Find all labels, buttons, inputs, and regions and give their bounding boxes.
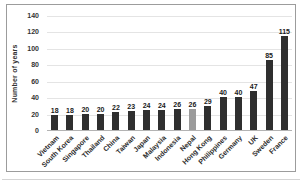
bar xyxy=(220,97,227,130)
gridline xyxy=(47,49,292,50)
chart-frame: Number of years 020406080100120140 18182… xyxy=(6,4,296,172)
bar xyxy=(204,106,211,130)
bar xyxy=(174,109,181,130)
bar xyxy=(97,114,104,130)
y-tick-label: 0 xyxy=(9,127,39,135)
y-tick-label: 20 xyxy=(9,111,39,119)
bar-value-label: 29 xyxy=(196,97,220,106)
bar xyxy=(235,97,242,130)
y-tick-label: 120 xyxy=(9,28,39,36)
bar xyxy=(128,111,135,130)
gridline xyxy=(47,32,292,33)
y-tick-label: 40 xyxy=(9,94,39,102)
bar-value-label: 47 xyxy=(242,82,266,91)
bar xyxy=(112,112,119,130)
y-tick-label: 80 xyxy=(9,61,39,69)
bar xyxy=(66,115,73,130)
bar xyxy=(51,115,58,130)
scan-shadow-line xyxy=(2,179,300,180)
y-tick-label: 100 xyxy=(9,45,39,53)
bar-value-label: 85 xyxy=(257,51,281,60)
gridline xyxy=(47,65,292,66)
bar xyxy=(281,36,288,130)
y-tick-label: 60 xyxy=(9,78,39,86)
bar xyxy=(189,109,196,130)
bar-value-label: 115 xyxy=(272,27,296,36)
bar xyxy=(250,91,257,130)
bar xyxy=(82,114,89,130)
bar xyxy=(158,110,165,130)
bar xyxy=(266,60,273,130)
gridline xyxy=(47,16,292,17)
y-tick-label: 140 xyxy=(9,12,39,20)
y-axis-ticks: 020406080100120140 xyxy=(7,16,43,131)
x-axis-labels: VietnamSouth KoreaSingaporeThailandChina… xyxy=(47,132,292,172)
x-axis-baseline xyxy=(47,130,292,131)
plot-area: 181820202223242426262940404785115 xyxy=(47,16,292,131)
bar xyxy=(143,110,150,130)
